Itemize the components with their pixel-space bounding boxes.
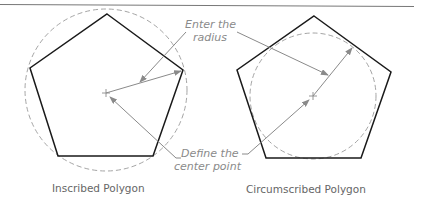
radius-arrow xyxy=(106,71,181,93)
center-leader-right xyxy=(242,100,309,154)
inscribed-pentagon xyxy=(30,14,183,156)
polygon-diagram: Enter the radius Define the center point… xyxy=(0,0,426,197)
circumscribed-pentagon xyxy=(237,16,391,158)
radius-label-line1: Enter the xyxy=(185,18,236,31)
center-label-line1: Define the xyxy=(181,147,239,160)
inscribed-polygon-figure xyxy=(25,9,187,171)
top-rule xyxy=(0,5,414,7)
circumscribed-polygon-figure xyxy=(237,16,391,159)
radius-label-line2: radius xyxy=(193,31,227,44)
center-label-line2: center point xyxy=(174,160,242,173)
caption-inscribed: Inscribed Polygon xyxy=(52,182,145,194)
radius-arrow xyxy=(313,48,352,96)
radius-leader-left xyxy=(140,32,186,82)
caption-circumscribed: Circumscribed Polygon xyxy=(246,183,366,195)
